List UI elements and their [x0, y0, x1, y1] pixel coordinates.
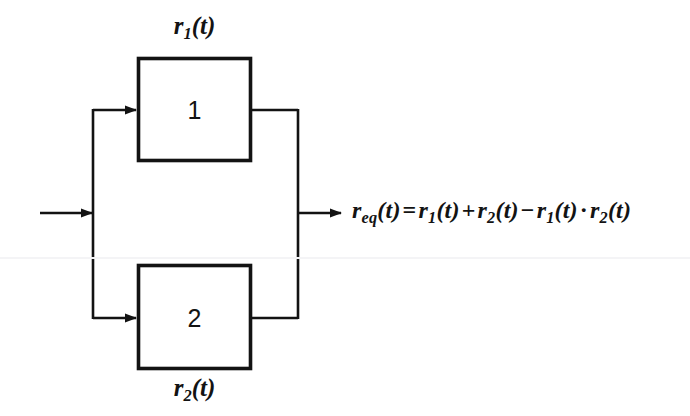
- block-1-label-subscript: 1: [183, 24, 191, 43]
- block-1-label: r1(t): [137, 12, 252, 44]
- block-2-label: r2(t): [137, 374, 252, 406]
- block-1-label-arg: (t): [192, 12, 216, 39]
- equation-lhs-subscript: eq: [362, 208, 378, 227]
- equation-plus: +: [460, 197, 478, 223]
- block-2-label-subscript: 2: [183, 386, 191, 405]
- equation-minus: −: [519, 197, 537, 223]
- block-1-number: 1: [137, 96, 252, 125]
- output-equation: req(t)=r1(t)+r2(t)−r1(t)·r2(t): [352, 197, 631, 228]
- equation-term3-base: r: [537, 197, 547, 223]
- diagram-canvas: r1(t) r2(t) 1 2 req(t)=r1(t)+r2(t)−r1(t)…: [0, 0, 690, 416]
- block-1-label-base: r: [174, 12, 184, 39]
- equation-term4-subscript: 2: [600, 208, 608, 227]
- equation-lhs-arg: (t): [377, 197, 400, 223]
- equation-term4-base: r: [590, 197, 600, 223]
- equation-lhs-base: r: [352, 197, 362, 223]
- equation-term1-arg: (t): [436, 197, 459, 223]
- equation-times: ·: [578, 197, 590, 223]
- equation-term3-subscript: 1: [546, 208, 554, 227]
- equation-term4-arg: (t): [608, 197, 631, 223]
- equation-equals: =: [401, 197, 419, 223]
- equation-term3-arg: (t): [555, 197, 578, 223]
- equation-term2-arg: (t): [495, 197, 518, 223]
- block-2-number: 2: [137, 304, 252, 333]
- block-2-label-base: r: [174, 374, 184, 401]
- equation-term1-base: r: [419, 197, 429, 223]
- block-2-label-arg: (t): [192, 374, 216, 401]
- equation-term2-base: r: [478, 197, 488, 223]
